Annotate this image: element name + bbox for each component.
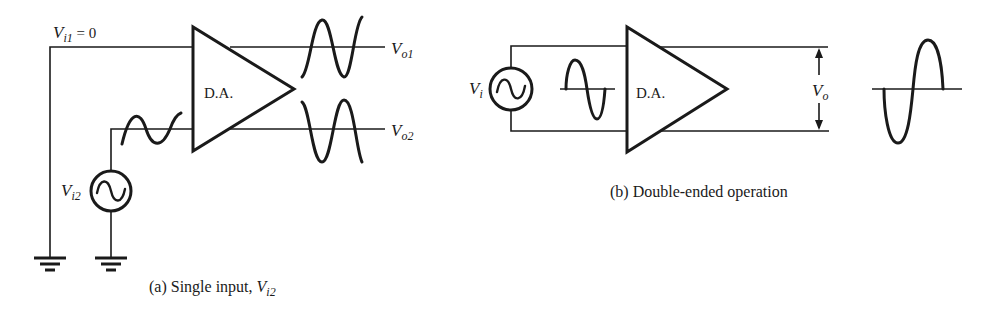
vo1-label: Vo1 (391, 39, 413, 61)
amplifier-label: D.A. (636, 85, 665, 101)
vi2-label: Vi2 (61, 181, 81, 203)
ground-symbol-icon (34, 258, 66, 270)
vi1-label: Vi1 = 0 (53, 23, 96, 45)
vi1-grounded-wire (50, 47, 193, 257)
part-b-caption: (b) Double-ended operation (610, 183, 788, 201)
part-a-single-input: D.A. Vi1 = 0 Vi2 Vo1 (34, 17, 413, 299)
vo2-label: Vo2 (391, 121, 413, 143)
vi-label: Vi (469, 79, 483, 101)
part-a-caption: (a) Single input, Vi2 (149, 278, 276, 299)
differential-amplifier-figure: D.A. Vi1 = 0 Vi2 Vo1 (0, 0, 1007, 313)
vo-label: Vo (812, 81, 828, 103)
output1-sine-wave-icon (302, 17, 362, 77)
ground-symbol-icon (95, 258, 127, 270)
input-bottom-wire (511, 110, 627, 131)
output2-sine-wave-icon (302, 100, 362, 162)
output-sine-wave-icon (884, 40, 943, 143)
amplifier-label: D.A. (204, 85, 233, 101)
part-b-double-ended: D.A. Vo Vi (b) Double-ended operation (469, 27, 962, 201)
